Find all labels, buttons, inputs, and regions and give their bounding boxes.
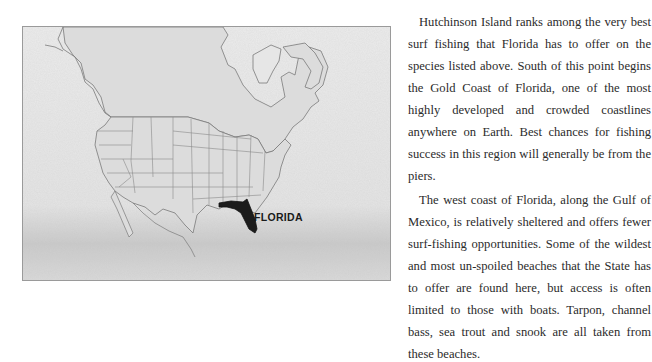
map-graphic: [23, 27, 391, 281]
paragraph: The west coast of Florida, along the Gul…: [408, 189, 651, 362]
north-america-map: FLORIDA: [22, 26, 391, 281]
paragraph: Hutchinson Island ranks among the very b…: [408, 11, 651, 187]
florida-label: FLORIDA: [254, 211, 303, 223]
article-text: Hutchinson Island ranks among the very b…: [408, 11, 651, 362]
